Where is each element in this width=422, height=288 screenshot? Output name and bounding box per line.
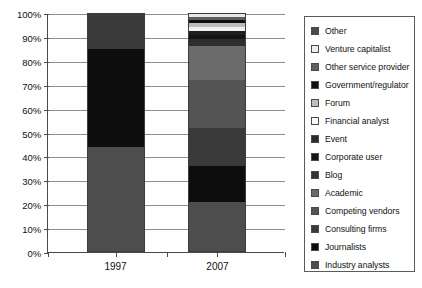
legend-swatch-icon — [311, 135, 319, 143]
gridline — [48, 134, 285, 135]
y-axis-label: 30% — [22, 176, 41, 187]
legend-item-label: Competing vendors — [325, 207, 399, 216]
legend-item-label: Academic — [325, 189, 363, 198]
legend-swatch-icon — [311, 81, 319, 89]
legend-item-industry-analysts[interactable]: Industry analysts — [305, 256, 414, 274]
bar-segment — [87, 147, 145, 252]
legend-item-label: Corporate user — [325, 153, 382, 162]
y-axis-tick — [44, 157, 49, 158]
gridline — [48, 205, 285, 206]
legend-item-label: Journalists — [325, 243, 366, 252]
legend-swatch-icon — [311, 261, 319, 269]
y-axis-label: 100% — [17, 9, 41, 20]
chart-container: 0%10%20%30%40%50%60%70%80%90%100%1997200… — [0, 0, 422, 288]
gridline — [48, 110, 285, 111]
legend-item-other-service-provider[interactable]: Other service provider — [305, 58, 414, 76]
x-axis-edge-tick — [48, 252, 49, 257]
legend-item-consulting-firms[interactable]: Consulting firms — [305, 220, 414, 238]
x-axis-edge-tick — [167, 252, 168, 257]
gridline — [48, 229, 285, 230]
bar-segment — [188, 14, 246, 16]
y-axis-tick — [44, 181, 49, 182]
bar-segment — [188, 202, 246, 252]
y-axis-tick — [44, 86, 49, 87]
legend-item-label: Financial analyst — [325, 117, 389, 126]
legend-item-label: Venture capitalist — [325, 45, 390, 54]
legend-swatch-icon — [311, 243, 319, 251]
gridline — [48, 62, 285, 63]
plot-area: 0%10%20%30%40%50%60%70%80%90%100%1997200… — [47, 14, 284, 253]
y-axis-label: 90% — [22, 32, 41, 43]
chart-legend: OtherVenture capitalistOther service pro… — [304, 16, 415, 272]
y-axis-label: 20% — [22, 200, 41, 211]
bar-segment — [188, 27, 246, 31]
legend-swatch-icon — [311, 207, 319, 215]
legend-item-label: Other — [325, 27, 346, 36]
bar-segment — [188, 35, 246, 40]
legend-item-government-regulator[interactable]: Government/regulator — [305, 76, 414, 94]
gridline — [48, 14, 285, 15]
bar-segment — [188, 46, 246, 79]
bar-segment — [188, 39, 246, 46]
legend-item-other[interactable]: Other — [305, 22, 414, 40]
legend-swatch-icon — [311, 171, 319, 179]
y-axis-tick — [44, 134, 49, 135]
legend-item-financial-analyst[interactable]: Financial analyst — [305, 112, 414, 130]
legend-swatch-icon — [311, 27, 319, 35]
bar-segment — [87, 13, 145, 49]
y-axis-tick — [44, 14, 49, 15]
legend-swatch-icon — [311, 117, 319, 125]
y-axis-label: 70% — [22, 80, 41, 91]
y-axis-tick — [44, 205, 49, 206]
bar-segment — [87, 49, 145, 147]
gridline — [48, 181, 285, 182]
legend-swatch-icon — [311, 63, 319, 71]
gridline — [48, 157, 285, 158]
y-axis-label: 80% — [22, 56, 41, 67]
bar-segment — [188, 13, 246, 14]
legend-item-label: Consulting firms — [325, 225, 386, 234]
x-axis-label-2007: 2007 — [206, 261, 228, 272]
legend-item-academic[interactable]: Academic — [305, 184, 414, 202]
legend-swatch-icon — [311, 99, 319, 107]
bar-2007 — [188, 13, 246, 252]
legend-item-label: Blog — [325, 171, 342, 180]
bar-segment — [188, 23, 246, 28]
bar-segment — [188, 80, 246, 128]
legend-item-label: Government/regulator — [325, 81, 409, 90]
y-axis-tick — [44, 62, 49, 63]
y-axis-tick — [44, 38, 49, 39]
x-axis-edge-tick — [285, 252, 286, 257]
x-axis-tick — [217, 252, 218, 257]
legend-item-label: Other service provider — [325, 63, 409, 72]
x-axis-label-1997: 1997 — [104, 261, 126, 272]
legend-item-venture-capitalist[interactable]: Venture capitalist — [305, 40, 414, 58]
bar-segment — [188, 31, 246, 35]
legend-item-forum[interactable]: Forum — [305, 94, 414, 112]
y-axis-tick — [44, 229, 49, 230]
y-axis-label: 60% — [22, 104, 41, 115]
legend-item-blog[interactable]: Blog — [305, 166, 414, 184]
legend-item-label: Industry analysts — [325, 261, 389, 270]
legend-item-label: Forum — [325, 99, 350, 108]
legend-swatch-icon — [311, 225, 319, 233]
bar-1997 — [87, 13, 145, 252]
legend-item-journalists[interactable]: Journalists — [305, 238, 414, 256]
legend-swatch-icon — [311, 189, 319, 197]
y-axis-label: 50% — [22, 128, 41, 139]
y-axis-label: 10% — [22, 224, 41, 235]
bar-segment — [188, 17, 246, 20]
gridline — [48, 86, 285, 87]
x-axis-tick — [116, 252, 117, 257]
legend-swatch-icon — [311, 45, 319, 53]
legend-item-event[interactable]: Event — [305, 130, 414, 148]
legend-swatch-icon — [311, 153, 319, 161]
bar-segment — [188, 20, 246, 23]
y-axis-label: 0% — [27, 248, 41, 259]
y-axis-label: 40% — [22, 152, 41, 163]
gridline — [48, 38, 285, 39]
legend-item-corporate-user[interactable]: Corporate user — [305, 148, 414, 166]
legend-item-competing-vendors[interactable]: Competing vendors — [305, 202, 414, 220]
legend-item-label: Event — [325, 135, 347, 144]
bar-segment — [188, 128, 246, 166]
